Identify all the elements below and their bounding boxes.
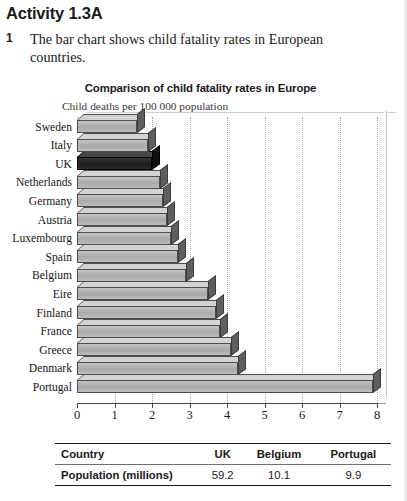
- category-label-italy: Italy: [0, 139, 72, 152]
- category-label-spain: Spain: [0, 251, 72, 264]
- question-block: 1 The bar chart shows child fatality rat…: [6, 30, 386, 67]
- category-label-uk: UK: [0, 158, 72, 171]
- x-axis-tick-label: 4: [215, 408, 239, 423]
- x-axis-tick-label: 8: [365, 408, 389, 423]
- x-axis-tick-label: 6: [290, 408, 314, 423]
- bar-front-face: [77, 139, 148, 152]
- bar-austria: [77, 213, 167, 226]
- bar-portugal: [77, 380, 373, 393]
- bar-belgium: [77, 269, 186, 282]
- bar-luxembourg: [77, 232, 171, 245]
- bar-france: [77, 325, 220, 338]
- category-label-austria: Austria: [0, 214, 72, 227]
- chart-title: Comparison of child fatality rates in Eu…: [0, 82, 401, 94]
- category-label-denmark: Denmark: [0, 362, 72, 375]
- column-header-portugal: Portugal: [316, 444, 391, 465]
- chart-subtitle: Child deaths per 100 000 population: [62, 100, 228, 112]
- row-label-population: Population (millions): [55, 465, 203, 486]
- bar-front-face: [77, 380, 373, 393]
- bar-front-face: [77, 232, 171, 245]
- column-header-country: Country: [55, 444, 203, 465]
- category-label-france: France: [0, 325, 72, 338]
- gridline: [265, 117, 266, 403]
- x-axis-tick-label: 5: [253, 408, 277, 423]
- bar-front-face: [77, 343, 231, 356]
- gridline: [377, 117, 378, 403]
- category-label-luxembourg: Luxembourg: [0, 232, 72, 245]
- bar-denmark: [77, 362, 238, 375]
- table-header: Country UK Belgium Portugal: [55, 444, 391, 465]
- bar-chart: 012345678 SwedenItalyUKNetherlandsGerman…: [0, 112, 407, 422]
- bar-front-face: [77, 194, 163, 207]
- x-axis-line-3d: [377, 397, 386, 404]
- bar-front-face: [77, 287, 208, 300]
- bar-uk: [77, 157, 152, 170]
- bar-spain: [77, 250, 178, 263]
- gridline: [340, 117, 341, 403]
- category-label-eire: Eire: [0, 288, 72, 301]
- x-axis-tick-label: 3: [178, 408, 202, 423]
- bar-front-face: [77, 250, 178, 263]
- category-label-portugal: Portugal: [0, 381, 72, 394]
- x-axis-tick-label: 0: [65, 408, 89, 423]
- bar-front-face: [77, 213, 167, 226]
- bar-sweden: [77, 120, 137, 133]
- bar-front-face: [77, 306, 216, 319]
- x-axis-tick-label: 7: [328, 408, 352, 423]
- table-header-row: Country UK Belgium Portugal: [55, 444, 391, 465]
- category-label-belgium: Belgium: [0, 269, 72, 282]
- bar-greece: [77, 343, 231, 356]
- category-label-germany: Germany: [0, 195, 72, 208]
- bar-netherlands: [77, 176, 160, 189]
- bar-front-face: [77, 362, 238, 375]
- x-axis-tick-label: 1: [103, 408, 127, 423]
- gridline: [302, 117, 303, 403]
- question-number: 1: [6, 30, 30, 45]
- population-table: Country UK Belgium Portugal Population (…: [55, 443, 391, 486]
- bar-front-face: [77, 176, 160, 189]
- bar-front-face: [77, 120, 137, 133]
- bar-finland: [77, 306, 216, 319]
- x-axis-tick-label: 2: [140, 408, 164, 423]
- question-text: The bar chart shows child fatality rates…: [30, 30, 360, 67]
- category-label-sweden: Sweden: [0, 121, 72, 134]
- column-header-belgium: Belgium: [242, 444, 315, 465]
- bar-front-face: [77, 269, 186, 282]
- category-label-greece: Greece: [0, 344, 72, 357]
- cell-population-portugal: 9.9: [316, 465, 391, 486]
- column-header-uk: UK: [203, 444, 242, 465]
- bar-germany: [77, 194, 163, 207]
- plot-backdrop-right: [377, 111, 387, 403]
- bar-italy: [77, 139, 148, 152]
- bar-eire: [77, 287, 208, 300]
- table-body: Population (millions) 59.2 10.1 9.9: [55, 465, 391, 486]
- bar-front-face: [77, 157, 152, 170]
- page-title: Activity 1.3A: [6, 4, 102, 23]
- cell-population-belgium: 10.1: [242, 465, 315, 486]
- category-label-finland: Finland: [0, 307, 72, 320]
- table-row: Population (millions) 59.2 10.1 9.9: [55, 465, 391, 486]
- cell-population-uk: 59.2: [203, 465, 242, 486]
- category-label-netherlands: Netherlands: [0, 176, 72, 189]
- bar-front-face: [77, 325, 220, 338]
